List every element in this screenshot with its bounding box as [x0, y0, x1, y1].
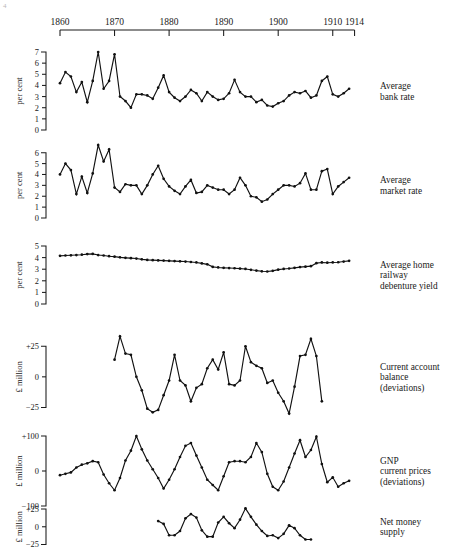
data-point [239, 176, 242, 179]
data-point [140, 389, 143, 392]
data-point [190, 513, 193, 516]
data-point [86, 192, 89, 195]
data-point [304, 538, 307, 541]
data-point [299, 182, 302, 185]
data-point [113, 255, 116, 258]
data-point [86, 253, 89, 256]
data-point [277, 102, 280, 105]
y-axis-unit-label: £ million [14, 510, 24, 542]
y-axis-spine [41, 52, 46, 130]
data-point [293, 91, 296, 94]
data-point [250, 456, 253, 459]
data-point [299, 266, 302, 269]
data-point [315, 262, 318, 265]
panel-current-account-balance-deviations: −250+25£ millionCurrent accountbalance(d… [14, 335, 440, 415]
y-tick-label: 3 [35, 181, 39, 190]
timeline-tick-label-1914: 1914 [345, 17, 364, 27]
data-line-current-account-balance-deviations [115, 336, 322, 413]
data-point [266, 535, 269, 538]
data-point [217, 188, 220, 191]
data-point [195, 387, 198, 390]
data-point [113, 53, 116, 56]
data-point [282, 100, 285, 103]
data-point [222, 516, 225, 519]
data-point [233, 527, 236, 530]
data-point [288, 94, 291, 97]
data-point [168, 260, 171, 263]
data-point [113, 489, 116, 492]
data-point [173, 353, 176, 356]
data-point [184, 384, 187, 387]
timeline-tick-label-1890: 1890 [214, 17, 233, 27]
data-point [293, 527, 296, 530]
data-point [184, 260, 187, 263]
y-axis-unit-label: per cent [14, 77, 24, 105]
data-point [195, 192, 198, 195]
panel-average-market-rate: 0123456per centAveragemarket rate [14, 144, 422, 223]
y-tick-label: +25 [26, 342, 39, 351]
data-point [119, 335, 122, 338]
data-point [173, 468, 176, 471]
timeline-tick-label-1880: 1880 [160, 17, 179, 27]
data-point [168, 534, 171, 537]
data-point [228, 383, 231, 386]
data-point [211, 358, 214, 361]
data-point [80, 463, 83, 466]
data-point [320, 463, 323, 466]
data-point [255, 523, 258, 526]
data-point [206, 91, 209, 94]
data-point [233, 79, 236, 82]
data-point [146, 259, 149, 262]
timeline-tick-label-1870: 1870 [105, 17, 124, 27]
data-point [255, 364, 258, 367]
data-point [179, 379, 182, 382]
data-point [277, 537, 280, 540]
data-point [206, 367, 209, 370]
y-tick-label: 5 [35, 70, 39, 79]
data-point [206, 478, 209, 481]
y-tick-label: 0 [35, 467, 39, 476]
data-point [271, 485, 274, 488]
data-point [304, 353, 307, 356]
data-point [140, 93, 143, 96]
y-axis-unit-label: per cent [14, 261, 24, 289]
data-point [64, 254, 67, 257]
data-point [331, 93, 334, 96]
data-point [64, 472, 67, 475]
data-point [59, 255, 62, 258]
data-point [91, 172, 94, 175]
data-point [288, 524, 291, 527]
data-point [250, 195, 253, 198]
data-point [348, 260, 351, 263]
data-point [124, 256, 127, 259]
y-axis-unit-label: £ million [14, 360, 24, 392]
data-point [157, 520, 160, 523]
data-point [315, 435, 318, 438]
data-point [124, 459, 127, 462]
data-point [70, 169, 73, 172]
chart-panels: 01234567per centAveragebank rate0123456p… [14, 48, 440, 549]
data-point [86, 101, 89, 104]
data-point [130, 257, 133, 260]
y-tick-label: +100 [22, 432, 39, 441]
data-point [326, 75, 329, 78]
series-caption-line: (deviations) [380, 383, 424, 394]
data-point [299, 92, 302, 95]
data-point [151, 97, 154, 100]
data-point [293, 385, 296, 388]
data-point [211, 484, 214, 487]
y-tick-label: 0 [35, 300, 39, 309]
data-point [217, 266, 220, 269]
panel-average-home-railway-debenture-yield: 012345per centAverage homerailwaydebentu… [14, 242, 438, 309]
y-tick-label: 4 [35, 254, 40, 263]
series-caption-line: bank rate [380, 92, 414, 102]
data-point [310, 188, 313, 191]
y-tick-label: 2 [35, 192, 39, 201]
data-point [59, 173, 62, 176]
data-point [233, 460, 236, 463]
data-point [151, 411, 154, 414]
data-point [337, 95, 340, 98]
data-point [244, 268, 247, 271]
data-point [244, 461, 247, 464]
data-point [162, 487, 165, 490]
